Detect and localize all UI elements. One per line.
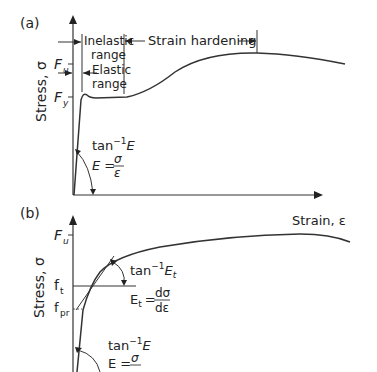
tick-fy: F (54, 89, 63, 105)
strain-hardening-label: Strain hardening (148, 33, 257, 48)
modulus-equation: E = (92, 158, 115, 173)
svg-text:t: t (60, 286, 64, 296)
svg-text:dσ: dσ (155, 286, 171, 300)
x-axis-arrow-icon (314, 191, 323, 199)
x-axis-label: Strain, ε (292, 213, 346, 228)
slope-label: tan−1E (92, 136, 136, 153)
svg-text:u: u (63, 236, 69, 246)
tick-fu: F (54, 227, 63, 243)
svg-text:y: y (62, 98, 69, 108)
tangent-line (76, 256, 114, 310)
y-axis-arrow-icon (69, 215, 77, 225)
svg-text:ε: ε (114, 166, 121, 180)
tangent-slope-label: tan−1Et (130, 261, 177, 280)
panel-b-label: (b) (20, 205, 40, 221)
panel-a: (a) Stress, σ Strain, ε F u F y Inelasti… (20, 15, 346, 228)
tangent-modulus-equation: Et= (130, 292, 156, 309)
y-axis-label: Stress, σ (31, 257, 47, 318)
elastic-range-label: Elastic (92, 63, 131, 77)
stress-strain-diagram: (a) Stress, σ Strain, ε F u F y Inelasti… (0, 0, 377, 372)
svg-text:dε: dε (155, 301, 169, 315)
svg-text:pr: pr (60, 308, 70, 318)
svg-text:σ: σ (114, 152, 122, 166)
panel-a-label: (a) (20, 15, 40, 31)
initial-modulus-equation: E = (108, 356, 131, 371)
tick-fu: F (54, 56, 63, 72)
initial-slope-label: tan−1E (108, 336, 152, 353)
svg-text:σ: σ (131, 351, 139, 365)
tick-fpr: f (54, 300, 59, 315)
panel-b: (b) Stress, σ F u f t f pr tan−1Et Et= d… (20, 205, 350, 372)
svg-text:range: range (91, 48, 126, 62)
y-axis-label: Stress, σ (33, 61, 49, 122)
inelastic-range-label: Inelastic (84, 34, 134, 48)
slope-arc (77, 152, 93, 193)
y-axis-arrow-icon (69, 15, 77, 24)
svg-text:range: range (92, 77, 127, 91)
